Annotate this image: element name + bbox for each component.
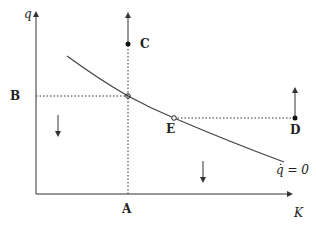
qdot-zero-curve: [67, 56, 284, 162]
point-D-dot: [293, 116, 298, 121]
label-D: D: [290, 123, 300, 137]
label-B: B: [10, 89, 20, 103]
label-A: A: [121, 202, 132, 216]
label-C: C: [140, 37, 150, 51]
phase-diagram: q K C B E D A q̇ = 0: [0, 0, 316, 225]
y-axis-label: q: [24, 7, 32, 21]
point-C-dot: [126, 42, 131, 47]
label-E: E: [166, 122, 175, 136]
point-E-dot: [172, 116, 177, 121]
x-axis-label: K: [293, 206, 304, 220]
diagram-svg: q K C B E D A q̇ = 0: [0, 0, 316, 225]
curve-label: q̇ = 0: [276, 163, 309, 177]
